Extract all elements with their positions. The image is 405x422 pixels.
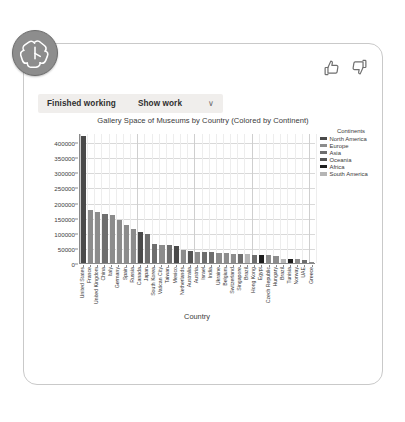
- x-tick-label: Austria: [194, 267, 199, 283]
- y-tick-label: 50000: [58, 245, 75, 252]
- bar[interactable]: [159, 245, 164, 263]
- y-tick-label: 100000: [54, 230, 75, 237]
- chart-title: Gallery Space of Museums by Country (Col…: [24, 116, 382, 125]
- legend-item[interactable]: North America: [320, 136, 382, 142]
- bar-slot: [137, 134, 144, 263]
- show-work-button[interactable]: Show work: [138, 99, 182, 108]
- bar-slot: [151, 134, 158, 263]
- bar[interactable]: [266, 255, 271, 263]
- bar-slot: [130, 134, 137, 263]
- bar[interactable]: [281, 259, 286, 263]
- bar-slot: [223, 134, 230, 263]
- legend-swatch: [320, 151, 327, 154]
- feedback-controls: [323, 59, 368, 76]
- bar[interactable]: [181, 250, 186, 263]
- bar-series: [80, 134, 315, 263]
- x-tick-label: Brazil: [280, 267, 285, 280]
- plot-canvas: [79, 134, 315, 264]
- x-tick-label: Switzerland: [230, 267, 235, 294]
- legend-swatch: [320, 172, 327, 175]
- x-tick-label: United States: [80, 267, 85, 298]
- x-tick-label: Germany: [116, 267, 121, 288]
- bar[interactable]: [209, 252, 214, 263]
- bar[interactable]: [188, 251, 193, 263]
- bar[interactable]: [309, 262, 314, 264]
- legend-item[interactable]: Asia: [320, 150, 382, 156]
- y-tick-label: 150000: [54, 215, 75, 222]
- bar[interactable]: [216, 253, 221, 263]
- openai-logo-icon: [20, 38, 50, 68]
- bar[interactable]: [195, 252, 200, 263]
- bar[interactable]: [124, 225, 129, 263]
- bar-slot: [166, 134, 173, 263]
- bar[interactable]: [202, 252, 207, 263]
- legend-label: Asia: [330, 150, 341, 156]
- bar-slot: [144, 134, 151, 263]
- bar[interactable]: [95, 212, 100, 263]
- bar[interactable]: [88, 210, 93, 264]
- bar-slot: [201, 134, 208, 263]
- bar-slot: [280, 134, 287, 263]
- bar-slot: [215, 134, 222, 263]
- bar-slot: [244, 134, 251, 263]
- bar[interactable]: [295, 259, 300, 263]
- bar-slot: [116, 134, 123, 263]
- bar-slot: [187, 134, 194, 263]
- assistant-message-card: Finished working Show work ∨ Gallery Spa…: [23, 43, 383, 385]
- bar[interactable]: [273, 256, 278, 263]
- legend-title: Continents: [320, 128, 382, 134]
- bar-slot: [294, 134, 301, 263]
- bar[interactable]: [288, 259, 293, 263]
- y-tick-mark: [75, 203, 78, 204]
- x-tick-label: Taiwan: [166, 267, 171, 283]
- thumbs-down-icon[interactable]: [351, 59, 368, 76]
- legend-item[interactable]: South America: [320, 171, 382, 177]
- bar[interactable]: [245, 254, 250, 263]
- x-tick-label: Spain: [123, 267, 128, 280]
- x-tick-label: Ukraine: [216, 267, 221, 285]
- bar[interactable]: [102, 214, 107, 263]
- bar-slot: [80, 134, 87, 263]
- chevron-down-icon[interactable]: ∨: [208, 99, 214, 108]
- bar[interactable]: [138, 232, 143, 263]
- bar[interactable]: [117, 220, 122, 263]
- bar[interactable]: [302, 260, 307, 263]
- y-tick-label: 400000: [54, 140, 75, 147]
- legend-item[interactable]: Africa: [320, 164, 382, 170]
- bar[interactable]: [174, 246, 179, 263]
- bar-slot: [101, 134, 108, 263]
- x-tick-label: Netherlands: [180, 267, 185, 295]
- x-axis-title: Country: [79, 312, 315, 321]
- bar[interactable]: [152, 244, 157, 263]
- thumbs-up-icon[interactable]: [323, 59, 340, 76]
- x-tick-label: Singapore: [237, 267, 242, 291]
- legend-item[interactable]: Europe: [320, 143, 382, 149]
- bar[interactable]: [252, 255, 257, 263]
- x-tick-label: Japan: [144, 267, 149, 281]
- x-tick-label: India: [209, 267, 214, 278]
- x-tick-label: France: [87, 267, 92, 283]
- bar-slot: [123, 134, 130, 263]
- chart-legend: Continents North AmericaEuropeAsiaOceani…: [320, 128, 382, 178]
- bar-slot: [87, 134, 94, 263]
- bar[interactable]: [224, 253, 229, 263]
- bar[interactable]: [238, 254, 243, 263]
- legend-swatch: [320, 144, 327, 147]
- x-tick-label: Brazil: [245, 267, 250, 280]
- bar[interactable]: [131, 229, 136, 263]
- y-tick-mark: [75, 143, 78, 144]
- assistant-avatar: [12, 30, 58, 76]
- bar-slot: [173, 134, 180, 263]
- tool-status-strip: Finished working Show work ∨: [38, 94, 223, 113]
- bar[interactable]: [145, 234, 150, 263]
- bar[interactable]: [167, 245, 172, 263]
- bar[interactable]: [259, 255, 264, 263]
- bar[interactable]: [231, 254, 236, 263]
- bar-slot: [258, 134, 265, 263]
- legend-item[interactable]: Oceania: [320, 157, 382, 163]
- bar[interactable]: [81, 136, 86, 263]
- bar[interactable]: [110, 215, 115, 263]
- x-tick-label: China: [101, 267, 106, 281]
- y-tick-mark: [75, 218, 78, 219]
- y-tick-mark: [75, 188, 78, 189]
